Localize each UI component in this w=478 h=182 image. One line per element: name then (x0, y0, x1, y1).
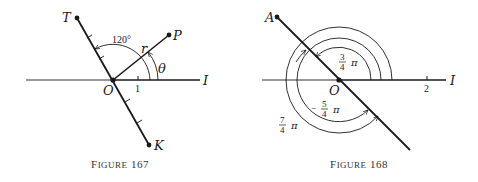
label-theta: θ (158, 61, 166, 76)
figure-caption: FIGURE 168 (330, 158, 388, 170)
label-I: I (202, 73, 209, 88)
svg-text:−: − (311, 103, 316, 113)
point-A (275, 15, 280, 20)
figure-caption: FIGURE 167 (91, 158, 149, 170)
figures-canvas: T P K O I r θ 120° 1 FIGURE 167 (0, 0, 478, 182)
svg-text:7: 7 (280, 115, 285, 125)
label-unit-1: 1 (135, 83, 140, 94)
figure-168: A O I 2 3 4 π − 5 4 π 7 4 π FIGURE 168 (262, 10, 456, 170)
point-O (110, 77, 115, 82)
label-O: O (103, 83, 114, 98)
label-P: P (172, 28, 182, 43)
svg-text:π: π (290, 120, 298, 131)
label-120-degrees: 120° (112, 34, 131, 45)
svg-text:5: 5 (322, 99, 327, 109)
label-T: T (62, 10, 72, 25)
svg-text:4: 4 (280, 125, 285, 135)
point-T (75, 16, 80, 21)
tick-mark (137, 120, 142, 123)
point-O (336, 77, 341, 82)
label-K: K (153, 138, 165, 153)
label-O: O (329, 83, 340, 98)
svg-text:4: 4 (340, 62, 345, 72)
figure-167: T P K O I r θ 120° 1 FIGURE 167 (26, 10, 209, 170)
tick-mark (125, 99, 130, 102)
svg-text:π: π (350, 57, 358, 68)
label-unit-2: 2 (424, 83, 429, 94)
label-seven-quarter-pi: 7 4 π (279, 115, 298, 135)
svg-text:4: 4 (322, 109, 327, 119)
svg-text:π: π (332, 104, 340, 115)
point-K (147, 143, 152, 148)
label-A: A (264, 10, 274, 25)
label-minus-five-quarter-pi: − 5 4 π (311, 99, 340, 119)
point-P (167, 33, 172, 38)
label-I: I (449, 73, 456, 88)
label-three-quarter-pi: 3 4 π (339, 52, 358, 72)
label-r: r (141, 41, 148, 56)
svg-text:3: 3 (340, 52, 345, 62)
